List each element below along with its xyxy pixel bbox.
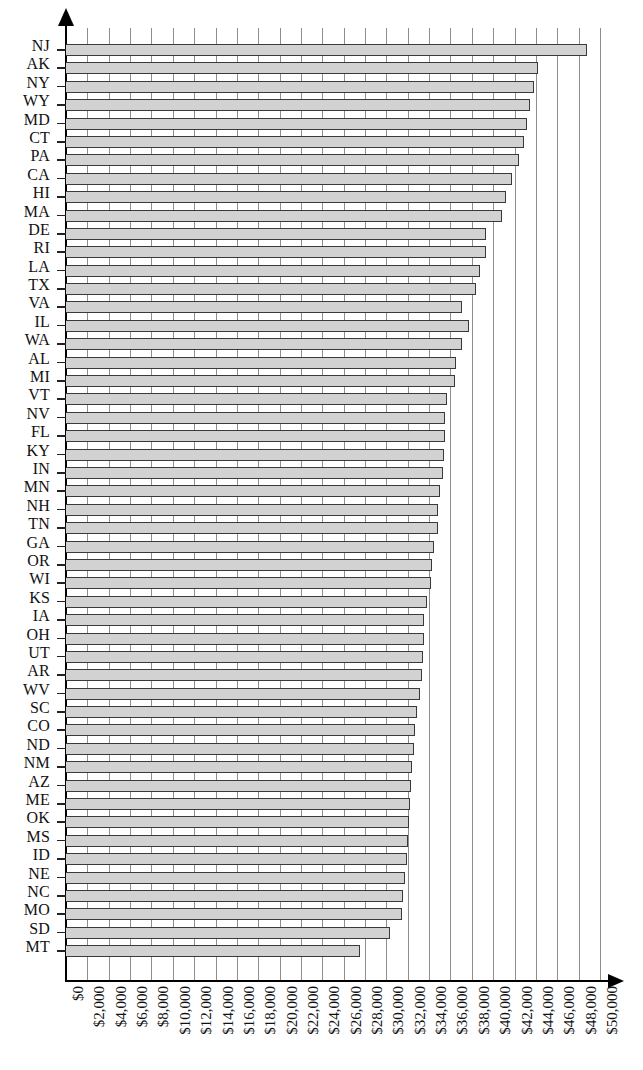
bar[interactable] [66,191,506,203]
category-label: TX [28,276,50,294]
bar[interactable] [66,853,407,865]
bar[interactable] [66,81,534,93]
category-label: IA [33,607,50,625]
bar[interactable] [66,265,480,277]
value-tick-label: $8,000 [156,986,171,1027]
category-label: NV [26,405,50,423]
category-tick-mark [57,288,66,290]
category-tick-mark [57,729,66,731]
bar-row [66,188,600,206]
bar[interactable] [66,320,469,332]
value-axis-labels: $0$2,000$4,000$6,000$8,000$10,000$12,000… [0,986,643,1070]
value-tick-label: $16,000 [242,986,257,1035]
category-tick-mark [57,454,66,456]
bar[interactable] [66,927,390,939]
category-label: NY [26,74,50,92]
bar[interactable] [66,467,443,479]
bar-row [66,427,600,445]
bar[interactable] [66,301,462,313]
bar-row [66,648,600,666]
bar[interactable] [66,154,519,166]
bar[interactable] [66,872,405,884]
bar[interactable] [66,835,408,847]
bar[interactable] [66,485,440,497]
value-tick-label: $36,000 [455,986,470,1035]
category-label: WI [29,570,50,588]
bar[interactable] [66,816,409,828]
bar[interactable] [66,559,432,571]
category-label: VT [28,386,50,404]
bar[interactable] [66,945,360,957]
bar[interactable] [66,706,417,718]
bar[interactable] [66,908,402,920]
bar[interactable] [66,504,438,516]
bar[interactable] [66,596,427,608]
bar[interactable] [66,780,411,792]
bar-row [66,777,600,795]
bar[interactable] [66,724,415,736]
bar[interactable] [66,210,502,222]
bar-row [66,740,600,758]
bar[interactable] [66,393,447,405]
bar[interactable] [66,228,486,240]
category-tick-mark [57,490,66,492]
bar-row [66,115,600,133]
value-tick-label: $32,000 [413,986,428,1035]
category-label: RI [34,239,50,257]
bar[interactable] [66,761,412,773]
bar[interactable] [66,44,587,56]
bar-row [66,630,600,648]
bar-row [66,869,600,887]
category-tick-mark [57,270,66,272]
bar[interactable] [66,62,538,74]
bar[interactable] [66,541,434,553]
bar[interactable] [66,669,422,681]
bar[interactable] [66,118,527,130]
value-tick-label: $2,000 [92,986,107,1027]
bar-row [66,96,600,114]
bar[interactable] [66,449,444,461]
bar[interactable] [66,577,431,589]
value-tick-label: $48,000 [584,986,599,1035]
bar-row [66,225,600,243]
category-tick-mark [57,472,66,474]
category-tick-mark [57,362,66,364]
bar-row [66,372,600,390]
bar[interactable] [66,283,476,295]
bar[interactable] [66,246,486,258]
bar-row [66,519,600,537]
bar-row [66,924,600,942]
bar[interactable] [66,357,456,369]
bar[interactable] [66,375,455,387]
category-label: SD [29,920,50,938]
category-tick-mark [57,380,66,382]
category-label: AZ [28,773,50,791]
bar[interactable] [66,890,403,902]
bar[interactable] [66,173,512,185]
bar[interactable] [66,136,524,148]
bar[interactable] [66,633,424,645]
bar[interactable] [66,798,410,810]
category-tick-mark [57,674,66,676]
category-label: NC [27,883,50,901]
bar[interactable] [66,412,445,424]
category-tick-mark [57,913,66,915]
value-tick-label: $6,000 [135,986,150,1027]
bar[interactable] [66,430,445,442]
bar[interactable] [66,614,424,626]
bar[interactable] [66,522,438,534]
value-tick-label: $34,000 [434,986,449,1035]
bar[interactable] [66,688,420,700]
category-label: MT [26,938,50,956]
category-label: ND [26,736,50,754]
bar-row [66,446,600,464]
bar[interactable] [66,99,530,111]
plot-area [66,41,600,980]
bar[interactable] [66,338,462,350]
bar-row [66,133,600,151]
category-label: MS [26,828,50,846]
bar[interactable] [66,743,414,755]
bar[interactable] [66,651,423,663]
value-tick-label: $22,000 [306,986,321,1035]
bar-row [66,703,600,721]
